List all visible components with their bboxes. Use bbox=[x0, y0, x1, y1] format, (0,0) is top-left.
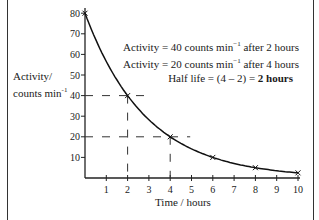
x-tick-label: 6 bbox=[210, 184, 215, 195]
annotation-activity-4h: Activity = 20 counts min−1 after 4 hours bbox=[123, 57, 299, 70]
y-tick-label: 20 bbox=[70, 131, 80, 142]
x-tick-label: 7 bbox=[232, 184, 237, 195]
y-axis-label-line1: Activity/ bbox=[13, 69, 67, 83]
x-tick-label: 3 bbox=[146, 184, 151, 195]
decay-chart: 102030405060708012345678910 bbox=[0, 0, 319, 220]
x-tick-label: 2 bbox=[125, 184, 130, 195]
y-axis-label-line2: counts min-1 bbox=[13, 83, 67, 100]
x-tick-label: 10 bbox=[293, 184, 303, 195]
y-tick-label: 70 bbox=[70, 28, 80, 39]
annotation-activity-2h: Activity = 40 counts min−1 after 2 hours bbox=[123, 40, 299, 53]
y-tick-label: 30 bbox=[70, 111, 80, 122]
y-tick-label: 40 bbox=[70, 90, 80, 101]
x-tick-label: 5 bbox=[189, 184, 194, 195]
y-tick-label: 10 bbox=[70, 152, 80, 163]
y-tick-label: 60 bbox=[70, 49, 80, 60]
decay-curve bbox=[85, 13, 298, 173]
x-tick-label: 1 bbox=[104, 184, 109, 195]
x-tick-label: 4 bbox=[168, 184, 173, 195]
x-tick-label: 8 bbox=[253, 184, 258, 195]
x-tick-label: 9 bbox=[274, 184, 279, 195]
y-tick-label: 80 bbox=[70, 8, 80, 19]
y-axis-label: Activity/ counts min-1 bbox=[13, 69, 67, 100]
x-axis-label: Time / hours bbox=[155, 196, 211, 208]
annotation-half-life: Half life = (4 – 2) = 2 hours bbox=[168, 72, 293, 84]
y-tick-label: 50 bbox=[70, 70, 80, 81]
